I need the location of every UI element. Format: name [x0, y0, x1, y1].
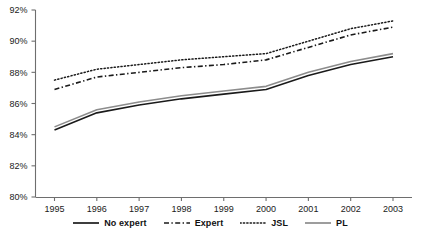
y-tick-label: 88% — [9, 68, 27, 78]
legend-label: Expert — [195, 218, 224, 228]
legend-item-jsl[interactable]: JSL — [240, 218, 288, 228]
legend-swatch-dash-dot-icon — [164, 219, 190, 227]
x-tick-label: 2000 — [256, 204, 276, 214]
data-series-group — [55, 21, 394, 130]
legend-label: No expert — [104, 218, 146, 228]
x-tick-label: 1998 — [171, 204, 191, 214]
legend-swatch-dotted-icon — [240, 219, 266, 227]
legend-swatch-solid-icon — [305, 219, 331, 227]
y-tick-label: 82% — [9, 161, 27, 171]
y-axis: 80%82%84%86%88%90%92% — [9, 5, 35, 202]
y-tick-label: 84% — [9, 130, 27, 140]
y-tick-label: 92% — [9, 5, 27, 15]
legend-item-no-expert[interactable]: No expert — [73, 218, 146, 228]
legend-swatch-solid-icon — [73, 219, 99, 227]
line-chart: 80%82%84%86%88%90%92% 199519961997199819… — [0, 0, 421, 244]
x-axis: 199519961997199819992000200120022003 — [36, 197, 413, 214]
x-axis-ticks: 199519961997199819992000200120022003 — [44, 197, 403, 214]
x-tick-label: 2003 — [383, 204, 403, 214]
y-tick-label: 90% — [9, 36, 27, 46]
y-tick-label: 80% — [9, 192, 27, 202]
legend-item-pl[interactable]: PL — [305, 218, 348, 228]
x-tick-label: 1999 — [214, 204, 234, 214]
legend-label: JSL — [271, 218, 288, 228]
series-line-expert — [55, 27, 394, 89]
y-axis-ticks: 80%82%84%86%88%90%92% — [9, 5, 35, 202]
series-line-jsl — [55, 21, 394, 80]
x-tick-label: 1997 — [129, 204, 149, 214]
x-tick-label: 2002 — [341, 204, 361, 214]
x-tick-label: 1996 — [87, 204, 107, 214]
x-tick-label: 1995 — [44, 204, 64, 214]
legend-item-expert[interactable]: Expert — [164, 218, 224, 228]
chart-container: 80%82%84%86%88%90%92% 199519961997199819… — [0, 0, 421, 244]
x-tick-label: 2001 — [298, 204, 318, 214]
y-tick-label: 86% — [9, 99, 27, 109]
chart-legend: No expertExpertJSLPL — [0, 218, 421, 228]
legend-label: PL — [336, 218, 348, 228]
